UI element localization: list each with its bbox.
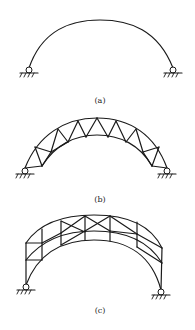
arch-diagram: (a) xyxy=(0,0,195,330)
pin-support-left-a xyxy=(20,67,38,77)
panel-c: (c) xyxy=(17,215,170,315)
caption-b: (b) xyxy=(94,195,105,204)
pin-support-right-a xyxy=(164,67,182,77)
caption-c: (c) xyxy=(95,306,106,315)
pin-support-right-b xyxy=(158,168,176,178)
end-post-right-c xyxy=(161,248,162,290)
caption-a: (a) xyxy=(94,96,105,105)
truss-web-b xyxy=(35,118,159,166)
panel-a: (a) xyxy=(20,20,182,105)
bottom-chord-c xyxy=(26,240,161,290)
bottom-chord-b xyxy=(42,135,152,166)
pin-support-left-c xyxy=(17,284,35,294)
pin-support-left-b xyxy=(16,168,34,178)
end-tie-right-b xyxy=(152,166,167,168)
end-tie-left-b xyxy=(25,166,42,168)
panel-b: (b) xyxy=(16,118,176,204)
solid-arch-a xyxy=(29,20,173,68)
pin-support-right-c xyxy=(152,289,170,299)
middle-chord-c xyxy=(26,231,162,263)
